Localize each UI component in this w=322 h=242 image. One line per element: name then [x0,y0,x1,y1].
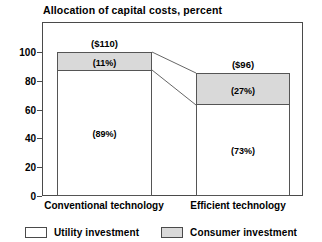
y-tick-label-20: 20 [10,162,36,173]
y-tick-label-60: 60 [10,105,36,116]
bar-conventional-utility-label: (89%) [58,129,151,139]
legend-item-consumer-investment: Consumer investment [161,227,297,238]
x-axis-label-conventional: Conventional technology [44,200,163,211]
bar-efficient-consumer-segment: (27%) [196,73,290,105]
chart-title: Allocation of capital costs, percent [43,4,222,16]
bar-conventional-total-label: ($110) [57,38,152,49]
y-tick-label-100: 100 [10,47,36,58]
legend-label-utility: Utility investment [54,227,139,238]
bar-efficient-total-label: ($96) [196,59,290,70]
y-tick-mark-0 [37,196,42,197]
y-tick-label-40: 40 [10,133,36,144]
legend-swatch-icon-utility [25,227,47,238]
y-tick-label-0: 0 [10,191,36,202]
chart-container: Allocation of capital costs, percent 100… [0,0,322,242]
chart-legend: Utility investment Consumer investment [0,224,322,240]
legend-swatch-icon-consumer [161,227,183,238]
y-axis: 100 80 60 40 20 0 [8,0,36,242]
x-axis-label-efficient: Efficient technology [190,200,286,211]
bar-efficient-utility-label: (73%) [197,146,289,156]
bar-efficient-utility-segment: (73%) [196,104,290,196]
legend-item-utility-investment: Utility investment [25,227,139,238]
bar-conventional-consumer-segment: (11%) [57,52,152,71]
bar-conventional-utility-segment: (89%) [57,70,152,196]
y-tick-label-80: 80 [10,76,36,87]
bar-conventional-consumer-label: (11%) [58,58,151,68]
legend-label-consumer: Consumer investment [190,227,297,238]
bar-efficient-consumer-label: (27%) [197,86,289,96]
